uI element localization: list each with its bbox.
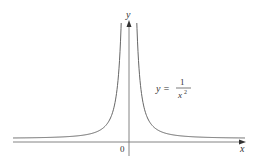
equation-denominator: x <box>177 90 182 100</box>
curve-right-branch <box>137 23 245 138</box>
x-axis-label: x <box>239 143 245 154</box>
y-axis-label: y <box>125 9 131 20</box>
origin-label: 0 <box>120 144 125 154</box>
equation-annotation: y = 1 x 2 <box>155 77 191 100</box>
curve-left-branch <box>13 23 121 138</box>
graph-of-reciprocal-square: y x 0 y = 1 x 2 <box>0 0 258 164</box>
y-axis-arrow-icon <box>127 20 132 27</box>
equation-lhs: y = <box>155 83 170 94</box>
equation-exponent: 2 <box>184 89 187 95</box>
equation-numerator: 1 <box>180 77 185 87</box>
